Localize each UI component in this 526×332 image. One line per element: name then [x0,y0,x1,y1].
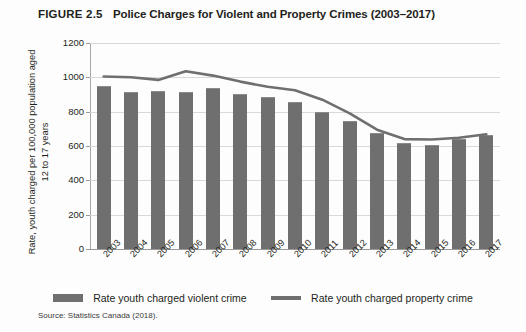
y-tick-label-200: 200 [48,209,84,220]
y-axis-tick-labels: 020040060080010001200 [44,43,84,249]
plot-area [90,43,500,249]
y-tick-label-1000: 1000 [48,71,84,82]
legend-label-property: Rate youth charged property crime [311,292,473,304]
figure-container: FIGURE 2.5 Police Charges for Violent an… [0,0,526,332]
legend-label-violent: Rate youth charged violent crime [93,292,247,304]
y-tick-label-800: 800 [48,106,84,117]
line-swatch-icon [271,296,301,300]
y-tick-label-1200: 1200 [48,37,84,48]
line-series [90,43,500,249]
x-axis-tick-labels: 2003200420052006200720082009201020112012… [90,252,500,286]
y-axis-title-line1: Rate, youth charged per 100,000 populati… [26,32,39,272]
chart-legend: Rate youth charged violent crime Rate yo… [0,288,526,304]
figure-title: Police Charges for Violent and Property … [113,8,435,20]
y-tick-label-600: 600 [48,140,84,151]
figure-header: FIGURE 2.5 Police Charges for Violent an… [0,6,526,28]
bar-swatch-icon [53,294,83,302]
y-tick-label-0: 0 [48,243,84,254]
property-crime-line [104,71,487,139]
source-note: Source: Statistics Canada (2018). [38,311,158,320]
legend-item-property: Rate youth charged property crime [271,291,473,304]
legend-item-violent: Rate youth charged violent crime [53,291,246,304]
figure-label: FIGURE 2.5 [38,8,103,20]
y-tick-label-400: 400 [48,174,84,185]
